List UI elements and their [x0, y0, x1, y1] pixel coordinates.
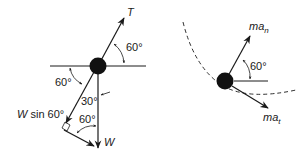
tension-label: T — [127, 6, 135, 18]
normal-force-label: man — [249, 20, 269, 35]
circular-path-dashed — [183, 22, 296, 94]
tension-angle-label: 60° — [126, 41, 143, 53]
diagram-canvas: T 60° W W sin 60° 60° 30° 60° — [0, 0, 308, 158]
normal-force-arrow — [228, 36, 250, 76]
weight-component-label: W sin 60° — [17, 108, 64, 120]
normal-force-subscript: n — [264, 26, 269, 35]
left-angle-label: 60° — [55, 76, 72, 88]
right-angle-marker — [62, 122, 70, 131]
ball-left — [90, 58, 107, 75]
bottom-angle-arc — [77, 126, 96, 133]
tangential-force-base: ma — [263, 111, 278, 123]
normal-force-base: ma — [249, 20, 264, 32]
bottom-angle-label: 60° — [79, 113, 96, 125]
perpendicular-component-arrow — [64, 130, 94, 146]
right-angle-label: 60° — [250, 60, 267, 72]
right-inertial-diagram: man 60° mat — [183, 20, 296, 126]
tangential-force-arrow — [232, 86, 268, 108]
ball-right — [217, 73, 234, 90]
tension-angle-arc — [114, 44, 124, 63]
left-angle-arc — [70, 68, 82, 84]
left-free-body-diagram: T 60° W W sin 60° 60° 30° 60° — [17, 6, 146, 148]
thirty-degree-label: 30° — [81, 95, 98, 107]
weight-component-rest: sin 60° — [27, 108, 64, 120]
weight-label: W — [104, 136, 116, 148]
tangential-force-label: mat — [263, 111, 281, 126]
tangential-force-subscript: t — [278, 117, 281, 126]
thirty-degree-marker — [101, 92, 110, 95]
